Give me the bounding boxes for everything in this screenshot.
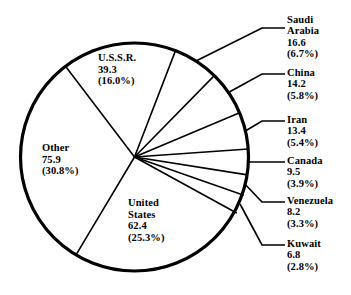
callout-kuwait-percent: (2.8%)	[287, 261, 321, 272]
callout-iran-value: 13.4	[287, 125, 318, 136]
callout-label-iran: Iran 13.4 (5.4%)	[287, 114, 318, 148]
leader-line-saudi-arabia	[196, 28, 285, 61]
callout-venezuela-name-line1: Venezuela	[287, 195, 333, 206]
callout-saudi-arabia-value: 16.6	[287, 37, 319, 48]
callout-label-venezuela: Venezuela 8.2 (3.3%)	[287, 195, 333, 229]
slice-label-ussr-percent: (16.0%)	[98, 75, 136, 87]
slice-label-other-name: Other	[42, 142, 79, 154]
callout-canada-name-line1: Canada	[287, 155, 323, 166]
leader-line-iran	[245, 121, 286, 132]
callout-label-china: China 14.2 (5.8%)	[287, 67, 318, 101]
leader-line-venezuela	[246, 185, 285, 202]
callout-saudi-arabia-percent: (6.7%)	[287, 48, 319, 59]
slice-label-united-states-name-line2: States	[128, 209, 165, 221]
callout-venezuela-value: 8.2	[287, 206, 333, 217]
callout-china-name-line1: China	[287, 67, 318, 78]
slice-label-ussr-value: 39.3	[98, 64, 136, 76]
callout-china-value: 14.2	[287, 78, 318, 89]
pie-chart-figure: U.S.S.R. 39.3 (16.0%) Other 75.9 (30.8%)…	[0, 0, 351, 295]
leader-line-china	[228, 74, 286, 93]
callout-label-kuwait: Kuwait 6.8 (2.8%)	[287, 238, 321, 272]
callout-kuwait-value: 6.8	[287, 249, 321, 260]
callout-iran-percent: (5.4%)	[287, 137, 318, 148]
callout-saudi-arabia-name-line2: Arabia	[287, 25, 319, 36]
callout-canada-percent: (3.9%)	[287, 178, 323, 189]
slice-label-united-states-percent: (25.3%)	[128, 232, 165, 244]
slice-label-other-percent: (30.8%)	[42, 165, 79, 177]
slice-label-united-states-value: 62.4	[128, 220, 165, 232]
slice-label-united-states-name-line1: United	[128, 197, 165, 209]
slice-label-other-value: 75.9	[42, 154, 79, 166]
callout-kuwait-name-line1: Kuwait	[287, 238, 321, 249]
slice-label-other: Other 75.9 (30.8%)	[42, 142, 79, 177]
leader-line-kuwait	[240, 204, 285, 245]
callout-china-percent: (5.8%)	[287, 90, 318, 101]
callout-label-saudi-arabia: Saudi Arabia 16.6 (6.7%)	[287, 14, 319, 60]
slice-label-ussr: U.S.S.R. 39.3 (16.0%)	[98, 52, 136, 87]
callout-venezuela-percent: (3.3%)	[287, 218, 333, 229]
callout-label-canada: Canada 9.5 (3.9%)	[287, 155, 323, 189]
callout-canada-value: 9.5	[287, 166, 323, 177]
slice-label-ussr-name: U.S.S.R.	[98, 52, 136, 64]
slice-label-united-states: United States 62.4 (25.3%)	[128, 197, 165, 243]
callout-iran-name-line1: Iran	[287, 114, 318, 125]
callout-saudi-arabia-name-line1: Saudi	[287, 14, 319, 25]
